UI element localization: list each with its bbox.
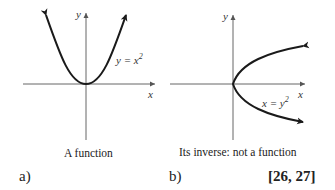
panel-b-caption: Its inverse: not a function — [179, 146, 297, 158]
panel-b-curve-label-exponent: 2 — [285, 95, 289, 104]
panel-b-axes — [170, 15, 305, 140]
panel-a-curve-label-base: y = x — [116, 54, 139, 66]
panel-a-caption: A function — [64, 147, 113, 159]
panel-b-curve-label-base: x = y — [262, 97, 285, 109]
panel-a-axes — [23, 13, 155, 140]
panel-a-tag: a) — [19, 168, 31, 185]
panel-a-curve-label-exponent: 2 — [139, 52, 143, 61]
panel-a-x-axis-label: x — [148, 88, 153, 100]
panel-a-y-axis-label: y — [76, 8, 81, 20]
panel-b-tag: b) — [169, 168, 182, 185]
panel-b-x-axis-label: x — [298, 88, 303, 100]
panel-b-curve-label: x = y2 — [262, 95, 289, 109]
panel-a-curve-label: y = x2 — [116, 52, 143, 66]
reference-citation: [26, 27] — [268, 168, 316, 185]
panel-b-y-axis-label: y — [223, 10, 228, 22]
